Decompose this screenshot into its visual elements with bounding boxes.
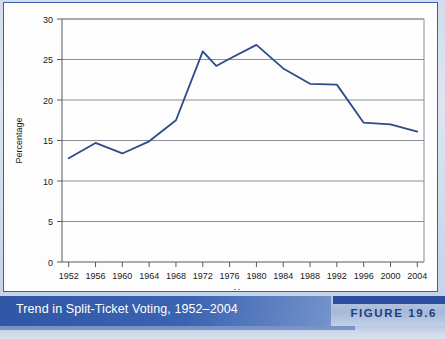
xtick-label-2000: 2000 bbox=[380, 271, 400, 281]
figure-caption-title: Trend in Split-Ticket Voting, 1952–2004 bbox=[16, 302, 238, 316]
ytick-label-15: 15 bbox=[43, 136, 53, 146]
xtick-label-1976: 1976 bbox=[220, 271, 240, 281]
ytick-label-25: 25 bbox=[43, 55, 53, 65]
chart-panel: 0510152025301952195619601964196819721976… bbox=[3, 2, 438, 292]
xtick-label-1964: 1964 bbox=[139, 271, 159, 281]
chart-plot-area: 0510152025301952195619601964196819721976… bbox=[4, 3, 437, 291]
xtick-label-1992: 1992 bbox=[327, 271, 347, 281]
xtick-label-1968: 1968 bbox=[166, 271, 186, 281]
xtick-label-2004: 2004 bbox=[407, 271, 427, 281]
xtick-label-1996: 1996 bbox=[354, 271, 374, 281]
xtick-label-1956: 1956 bbox=[86, 271, 106, 281]
ytick-label-5: 5 bbox=[48, 217, 53, 227]
ytick-label-10: 10 bbox=[43, 177, 53, 187]
xtick-label-1988: 1988 bbox=[300, 271, 320, 281]
figure-number-accent-bar bbox=[333, 296, 445, 304]
xtick-label-1952: 1952 bbox=[59, 271, 79, 281]
figure-card: 0510152025301952195619601964196819721976… bbox=[0, 0, 445, 339]
page-bottom-strip bbox=[0, 326, 445, 339]
ytick-label-30: 30 bbox=[43, 15, 53, 25]
ytick-label-20: 20 bbox=[43, 96, 53, 106]
y-axis-title: Percentage bbox=[14, 117, 24, 163]
data-series-0 bbox=[69, 45, 418, 158]
ytick-label-0: 0 bbox=[48, 258, 53, 268]
xtick-label-1972: 1972 bbox=[193, 271, 213, 281]
line-chart: 0510152025301952195619601964196819721976… bbox=[4, 3, 436, 290]
xtick-label-1984: 1984 bbox=[273, 271, 293, 281]
xtick-label-1980: 1980 bbox=[246, 271, 266, 281]
xtick-label-1960: 1960 bbox=[112, 271, 132, 281]
figure-number-label: FIGURE 19.6 bbox=[350, 307, 437, 319]
x-axis-title: Year bbox=[234, 287, 252, 290]
